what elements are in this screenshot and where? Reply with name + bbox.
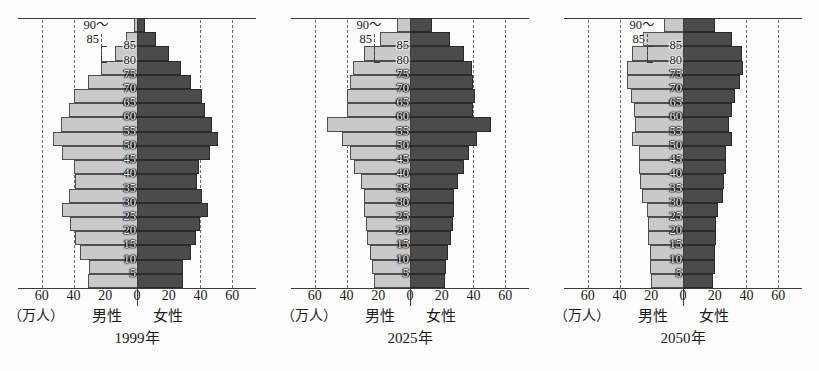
bar-male — [53, 132, 137, 146]
bar-male — [62, 203, 137, 217]
bar-male — [380, 32, 410, 46]
bar-male — [80, 245, 137, 259]
x-tick-label: 20 — [98, 288, 112, 304]
x-tick-label: 40 — [739, 288, 753, 304]
bar-female — [683, 46, 742, 60]
bar-male — [347, 89, 410, 103]
male-legend-label: 男性 — [92, 308, 122, 325]
pyramid-panel-1: 51015202530354045505560657075808590～8560… — [0, 0, 273, 371]
bar-male — [364, 203, 410, 217]
bar-male — [353, 61, 410, 75]
x-tick-label: 60 — [308, 288, 322, 304]
chart-title-year: 2050年 — [661, 330, 706, 347]
plot-area: 51015202530354045505560657075808590～85 — [18, 18, 256, 288]
bar-female — [410, 32, 450, 46]
population-pyramid-figure: 51015202530354045505560657075808590～8560… — [0, 0, 819, 371]
bar-male — [664, 18, 683, 32]
female-legend-label: 女性 — [699, 308, 729, 325]
x-tick-label: 20 — [371, 288, 385, 304]
zero-axis-line — [410, 20, 411, 306]
x-tick-label: 20 — [162, 288, 176, 304]
unit-label: （万人） — [281, 308, 337, 324]
bar-male — [69, 189, 137, 203]
bar-male — [650, 260, 683, 274]
bar-female — [137, 32, 156, 46]
x-tick-label: 40 — [613, 288, 627, 304]
x-tick-label: 20 — [708, 288, 722, 304]
bar-female — [137, 189, 202, 203]
bar-male — [631, 89, 683, 103]
bar-female — [410, 132, 477, 146]
bar-female — [410, 61, 472, 75]
bar-male — [354, 160, 410, 174]
zero-axis-line — [137, 20, 138, 306]
bar-female — [683, 61, 743, 75]
bar-male — [75, 174, 137, 188]
male-legend-label: 男性 — [365, 308, 395, 325]
bar-female — [683, 217, 716, 231]
zero-axis-line — [683, 20, 684, 306]
bar-male — [632, 132, 683, 146]
bar-female — [683, 117, 729, 131]
bar-female — [410, 160, 464, 174]
bar-male — [74, 89, 137, 103]
bar-male — [643, 32, 683, 46]
bar-male — [75, 231, 137, 245]
bar-female — [137, 160, 199, 174]
bar-male — [648, 217, 683, 231]
bar-female — [410, 146, 469, 160]
unit-label: （万人） — [554, 308, 610, 324]
bar-female — [137, 61, 181, 75]
x-tick-label: 40 — [340, 288, 354, 304]
bar-female — [410, 203, 454, 217]
bar-female — [410, 103, 473, 117]
bar-male — [374, 274, 410, 288]
bar-female — [410, 189, 454, 203]
bar-male — [364, 46, 410, 60]
chart-title-year: 2025年 — [388, 330, 433, 347]
bar-female — [683, 132, 732, 146]
x-tick-label: 60 — [225, 288, 239, 304]
bar-male — [632, 46, 683, 60]
bar-male — [366, 217, 410, 231]
bar-female — [137, 18, 145, 32]
bar-male — [61, 117, 137, 131]
bar-male — [350, 146, 410, 160]
chart-title-year: 1999年 — [115, 330, 160, 347]
bar-female — [683, 18, 715, 32]
bar-female — [410, 231, 451, 245]
bar-male — [627, 75, 683, 89]
bar-male — [372, 260, 410, 274]
bar-male — [647, 203, 683, 217]
plot-area: 51015202530354045505560657075808590～85 — [564, 18, 802, 288]
bar-female — [683, 75, 740, 89]
bar-female — [410, 260, 446, 274]
bar-female — [137, 260, 183, 274]
bar-male — [397, 18, 410, 32]
bar-female — [137, 46, 169, 60]
bar-female — [137, 146, 210, 160]
bar-male — [627, 61, 683, 75]
bar-female — [137, 103, 205, 117]
plot-area: 51015202530354045505560657075808590～85 — [291, 18, 529, 288]
bar-female — [137, 89, 202, 103]
bar-male — [88, 75, 137, 89]
bar-male — [650, 245, 683, 259]
bar-female — [410, 18, 432, 32]
bar-female — [137, 132, 218, 146]
bar-male — [648, 231, 683, 245]
bar-female — [137, 75, 191, 89]
bar-female — [683, 160, 726, 174]
bar-female — [683, 189, 723, 203]
pyramid-panel-2: 51015202530354045505560657075808590～8560… — [273, 0, 546, 371]
male-legend-label: 男性 — [638, 308, 668, 325]
x-tick-label: 40 — [67, 288, 81, 304]
bar-male — [69, 103, 137, 117]
x-tick-label: 20 — [435, 288, 449, 304]
bar-female — [410, 75, 473, 89]
bar-male — [70, 217, 137, 231]
bar-female — [410, 274, 445, 288]
bar-female — [137, 203, 208, 217]
female-legend-label: 女性 — [153, 308, 183, 325]
bar-male — [361, 174, 410, 188]
